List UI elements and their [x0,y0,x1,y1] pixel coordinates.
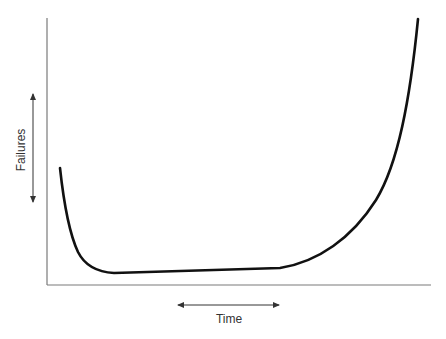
bathtub-chart: Failures Time [0,0,446,339]
y-axis-label: Failures [14,129,28,172]
x-axis-label: Time [216,312,243,326]
failure-curve [60,19,418,273]
